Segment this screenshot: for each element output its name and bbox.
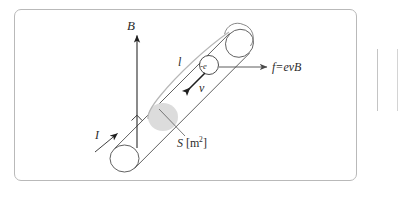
length-label: l [178, 55, 182, 69]
area-label-group: S [m 2 ] [177, 135, 207, 150]
force-label: f=evB [272, 60, 302, 74]
magnetic-field-label: B [127, 18, 135, 33]
electron-charge-label: -e [200, 61, 207, 71]
physics-diagram: B I l -e v f=evB S [m 2 ] [0, 0, 398, 198]
conductor-end-cap-top [220, 24, 260, 64]
current-label: I [94, 128, 100, 142]
area-symbol-label: S [177, 136, 183, 150]
figure-root: B I l -e v f=evB S [m 2 ] [0, 0, 398, 198]
conductor-body [110, 23, 259, 172]
area-unit-open-label: [m [186, 136, 200, 150]
velocity-label: v [199, 81, 205, 95]
area-unit-close-label: ] [203, 136, 207, 150]
